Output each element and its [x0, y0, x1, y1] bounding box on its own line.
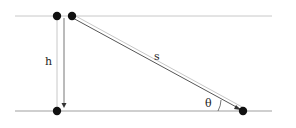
height-arrowhead-icon: [62, 103, 67, 108]
bottom-left-dot: [53, 107, 61, 115]
top-start-dot: [68, 12, 76, 20]
angle-arc: [218, 100, 221, 111]
incline-diagram: h s θ: [0, 0, 296, 128]
slope-label: s: [154, 50, 160, 63]
height-label: h: [45, 55, 52, 68]
top-left-dot: [53, 12, 61, 20]
angle-label: θ: [205, 97, 212, 110]
slope-line: [71, 17, 240, 109]
bottom-end-dot: [239, 107, 247, 115]
